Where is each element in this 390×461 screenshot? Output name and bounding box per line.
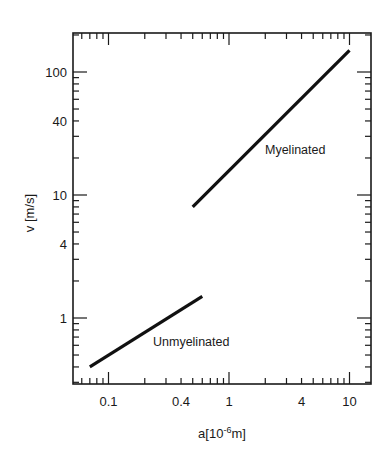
data-series (90, 50, 350, 367)
x-tick-label: 0.1 (99, 394, 117, 409)
y-axis-title: v [m/s] (22, 194, 37, 232)
series-line-unmyelinated (90, 296, 202, 367)
x-tick-label: 0.4 (172, 394, 190, 409)
series-line-myelinated (193, 50, 350, 207)
y-tick-label: 100 (45, 65, 67, 80)
plot-frame (73, 33, 371, 384)
chart-canvas: 0.10.41410 141040100 MyelinatedUnmyelina… (0, 0, 390, 461)
x-tick-label: 1 (225, 394, 232, 409)
plot-border (73, 33, 371, 384)
annotation-unmyelinated: Unmyelinated (153, 335, 229, 349)
x-axis-title: a[10-6m] (198, 425, 246, 441)
y-axis-ticks: 141040100 (45, 35, 371, 382)
x-axis-ticks: 0.10.41410 (82, 33, 357, 409)
annotation-myelinated: Myelinated (265, 143, 325, 157)
y-tick-label: 10 (53, 188, 67, 203)
y-tick-label: 40 (53, 114, 67, 129)
y-tick-label: 4 (60, 237, 67, 252)
x-tick-label: 4 (298, 394, 305, 409)
y-tick-label: 1 (60, 311, 67, 326)
annotations: MyelinatedUnmyelinated (153, 143, 325, 349)
x-tick-label: 10 (342, 394, 356, 409)
